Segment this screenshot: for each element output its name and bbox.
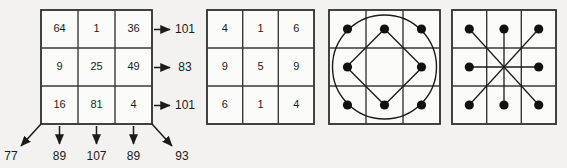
dot-r1c2-panel3 (417, 62, 426, 71)
row-sum-label-2: 101 (175, 98, 195, 112)
cell-r1c0-panel2: 9 (222, 60, 228, 72)
panel-circle-diamond (329, 10, 440, 124)
cell-r2c0-panel1: 16 (53, 98, 65, 110)
cell-r0c1-panel2: 1 (257, 22, 263, 34)
dot-r0c2-panel4 (534, 24, 543, 33)
cell-r2c2-panel2: 4 (293, 98, 299, 110)
cell-r0c0-panel2: 4 (222, 22, 228, 34)
dot-r1c0-panel3 (343, 62, 352, 71)
dot-r0c2-panel3 (417, 24, 426, 33)
cell-r1c1-panel2: 5 (257, 60, 263, 72)
dot-r1c0-panel4 (465, 62, 474, 71)
cell-r0c0-panel1: 64 (53, 22, 65, 34)
row-sum-label-0: 101 (175, 22, 195, 36)
col-sum-label-0: 89 (53, 149, 67, 163)
panel-digit-grid: 4 1 6 9 5 9 6 1 4 (207, 10, 314, 124)
dot-r2c0-panel3 (343, 100, 352, 109)
cell-r1c2-panel2: 9 (293, 60, 299, 72)
cell-r0c2-panel2: 6 (293, 22, 299, 34)
panel-asterisk (452, 10, 556, 124)
dot-r2c2-panel4 (534, 100, 543, 109)
anti-diagonal-sum-arrow (21, 124, 41, 146)
dot-r1c2-panel4 (534, 62, 543, 71)
dot-r2c1-panel4 (499, 100, 508, 109)
cell-r2c1-panel1: 81 (90, 98, 102, 110)
anti-diagonal-sum-label: 77 (4, 149, 18, 163)
row-sum-label-1: 83 (178, 60, 192, 74)
cell-r0c2-panel1: 36 (127, 22, 139, 34)
col-sum-label-1: 107 (86, 149, 106, 163)
dot-r2c1-panel3 (380, 100, 389, 109)
dot-r0c1-panel4 (499, 24, 508, 33)
cell-r1c2-panel1: 49 (127, 60, 139, 72)
cell-r2c0-panel2: 6 (222, 98, 228, 110)
panel-magic-square: 64 1 36 9 25 49 16 81 4 101 83 101 89 10… (4, 10, 195, 163)
cell-r0c1-panel1: 1 (93, 22, 99, 34)
figure-canvas: 64 1 36 9 25 49 16 81 4 101 83 101 89 10… (0, 0, 567, 168)
dot-r0c1-panel3 (380, 24, 389, 33)
cell-r1c1-panel1: 25 (90, 60, 102, 72)
main-diagonal-sum-label: 93 (175, 149, 189, 163)
cell-r2c2-panel1: 4 (130, 98, 136, 110)
cell-r2c1-panel2: 1 (257, 98, 263, 110)
dot-r2c0-panel4 (465, 100, 474, 109)
cell-r1c0-panel1: 9 (56, 60, 62, 72)
dot-r0c0-panel4 (465, 24, 474, 33)
dot-r0c0-panel3 (343, 24, 352, 33)
dot-r2c2-panel3 (417, 100, 426, 109)
col-sum-label-2: 89 (127, 149, 141, 163)
main-diagonal-sum-arrow (152, 124, 172, 146)
